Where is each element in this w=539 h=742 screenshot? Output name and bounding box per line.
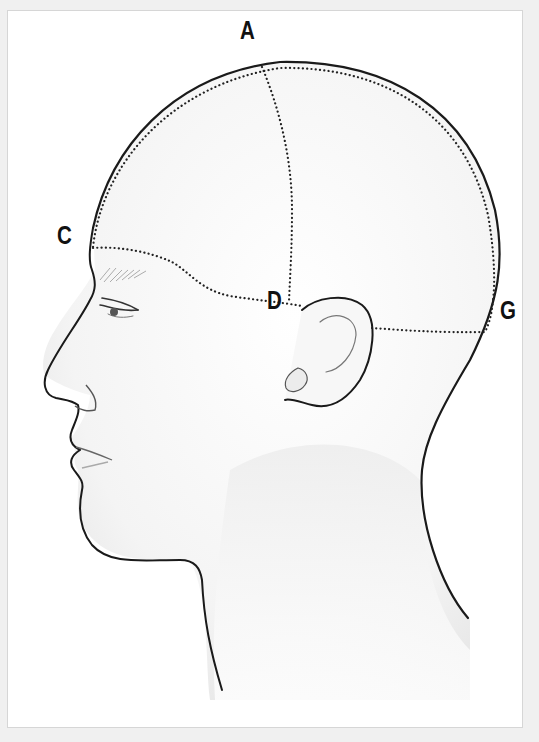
head-illustration — [0, 0, 539, 742]
label-G: G — [500, 298, 516, 323]
label-A: A — [240, 18, 255, 43]
label-C: C — [57, 223, 72, 248]
label-D: D — [267, 288, 282, 313]
